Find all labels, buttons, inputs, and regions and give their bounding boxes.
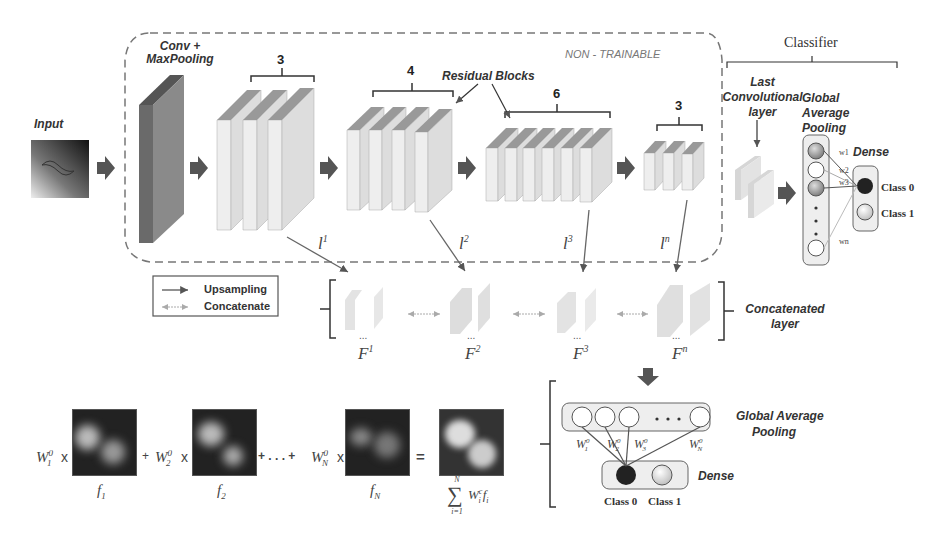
feature-label-F2: F2	[465, 343, 480, 364]
dense-label-top: Dense	[853, 145, 889, 159]
layer-label-l3: l3	[563, 233, 573, 254]
last-conv-line1: Last	[715, 75, 810, 90]
feature-label-f2: f2	[217, 482, 226, 501]
upsampling-arrows	[287, 200, 687, 272]
times-1: x	[61, 449, 68, 465]
last-conv-line3: layer	[715, 105, 810, 120]
stage-4-blocks	[644, 117, 704, 190]
class0-label-top: Class 0	[881, 181, 914, 193]
sum-expression: Wcifi	[468, 487, 489, 505]
feature-map-fn	[345, 409, 410, 476]
times-n: x	[337, 449, 344, 465]
concat-line2: layer	[740, 317, 830, 332]
feature-label-fn: fN	[370, 482, 380, 501]
sum-bottom: i=1	[444, 507, 470, 516]
weight-w1: w1	[839, 148, 849, 157]
plus-1: +	[142, 449, 149, 463]
bottom-weight-1: W01	[576, 437, 588, 453]
feature-map-f1	[72, 409, 137, 476]
feature-label-F3: F3	[573, 343, 588, 364]
feature-maps	[345, 283, 710, 337]
weight-w3: w3	[839, 178, 849, 187]
stage-1-count: 3	[277, 52, 284, 67]
input-label: Input	[34, 117, 63, 131]
feature-label-F1: F1	[358, 343, 373, 364]
gap-bottom-line1: Global Average	[736, 408, 824, 424]
classifier-title: Classifier	[784, 35, 838, 51]
conv-label-line2: MaxPooling	[140, 53, 220, 66]
plus-ellipsis: + . . . +	[258, 449, 295, 463]
class1-label-bottom: Class 1	[648, 495, 681, 507]
gap-label-bottom: Global Average Pooling	[736, 408, 824, 440]
class-activation-map	[439, 409, 504, 476]
sum-sign: ∑	[447, 482, 463, 508]
feature-label-f1: f1	[97, 482, 106, 501]
layer-label-l2: l2	[459, 233, 469, 254]
stage-4-count: 3	[675, 98, 682, 113]
bottom-weight-n: W0N	[689, 437, 702, 453]
residual-blocks-label: Residual Blocks	[442, 69, 535, 83]
class1-label-top: Class 1	[881, 207, 914, 219]
gap-label-top: Global Average Pooling	[802, 91, 849, 136]
down-arrow	[637, 368, 659, 386]
non-trainable-label: NON - TRAINABLE	[565, 48, 660, 60]
last-conv-layer	[735, 156, 774, 218]
times-2: x	[181, 449, 188, 465]
cam-weight-1: W01	[36, 448, 52, 468]
gap-line3: Pooling	[802, 121, 849, 136]
input-image	[31, 140, 89, 198]
stage-3-blocks	[486, 104, 612, 202]
gap-bottom-line2: Pooling	[736, 424, 824, 440]
stage-2-count: 4	[407, 63, 414, 78]
cam-weight-2: W02	[155, 448, 171, 468]
last-conv-line2: Convolutional	[715, 90, 810, 105]
layer-label-l1: l1	[318, 233, 328, 254]
cam-weight-n: W0N	[311, 448, 328, 468]
ellipsis-fn: ...	[672, 330, 680, 341]
conv-maxpooling-label: Conv + MaxPooling	[140, 40, 220, 66]
layer-label-ln: ln	[660, 233, 670, 254]
stage-1-blocks	[217, 68, 314, 230]
ellipsis-f2: ...	[467, 330, 475, 341]
feature-map-f2	[192, 409, 257, 476]
ellipsis-f1: ...	[359, 330, 367, 341]
legend-concatenate: Concatenate	[204, 300, 270, 312]
feature-label-Fn: Fn	[672, 343, 687, 364]
dense-label-bottom: Dense	[698, 469, 734, 483]
last-conv-layer-label: Last Convolutional layer	[715, 75, 810, 120]
weight-wn: wn	[839, 237, 849, 246]
gap-line2: Average	[802, 106, 849, 121]
ellipsis-f3: ...	[573, 330, 581, 341]
concatenated-layer-label: Concatenated layer	[740, 302, 830, 332]
gap-line1: Global	[802, 91, 849, 106]
class0-label-bottom: Class 0	[604, 495, 637, 507]
stage-2-blocks	[347, 83, 453, 212]
bottom-weight-3: W03	[634, 437, 646, 453]
weight-w2: w2	[839, 166, 849, 175]
bottom-weight-2: W02	[607, 437, 619, 453]
stage-3-count: 6	[553, 86, 560, 101]
equals-sign: =	[416, 448, 425, 465]
legend-upsampling: Upsampling	[204, 283, 267, 295]
conv-block	[139, 75, 184, 243]
concat-line1: Concatenated	[740, 302, 830, 317]
